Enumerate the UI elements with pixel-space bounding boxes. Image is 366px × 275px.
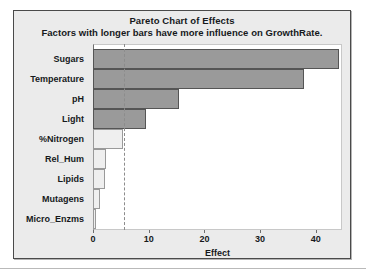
bar-light (93, 109, 146, 129)
x-axis: Effect 010203040 (93, 230, 342, 260)
x-axis-tick (316, 230, 317, 233)
x-axis-tick-label: 10 (144, 234, 154, 244)
chart-title: Pareto Chart of Effects (14, 15, 350, 27)
chart-subtitle: Factors with longer bars have more influ… (14, 27, 350, 39)
bar-row (93, 69, 342, 89)
bar-row (93, 109, 342, 129)
bar-row (93, 189, 342, 209)
y-axis-label: Temperature (14, 69, 89, 89)
y-axis-label: Rel_Hum (14, 149, 89, 169)
bar-rel-hum (93, 149, 106, 169)
bar-sugars (93, 49, 339, 69)
bar-row (93, 89, 342, 109)
plot-region (93, 44, 342, 230)
reference-line (124, 44, 125, 230)
y-axis-label: Mutagens (14, 189, 89, 209)
bar-row (93, 169, 342, 189)
x-axis-tick (149, 230, 150, 233)
x-axis-title: Effect (93, 248, 342, 258)
bar-row (93, 129, 342, 149)
y-axis-label: Light (14, 109, 89, 129)
y-axis-label: Sugars (14, 49, 89, 69)
page-divider (0, 268, 366, 269)
bar-micro-enzms (93, 209, 96, 229)
bar-mutagens (93, 189, 100, 209)
y-axis-category-labels: SugarsTemperaturepHLight%NitrogenRel_Hum… (14, 49, 89, 230)
bar--nitrogen (93, 129, 123, 149)
y-axis-label: Lipids (14, 169, 89, 189)
pareto-chart-figure: Pareto Chart of Effects Factors with lon… (13, 10, 351, 259)
chart-title-block: Pareto Chart of Effects Factors with lon… (14, 15, 350, 39)
x-axis-tick (93, 230, 94, 233)
x-axis-tick-label: 30 (255, 234, 265, 244)
x-axis-tick-label: 0 (90, 234, 95, 244)
x-axis-tick (204, 230, 205, 233)
y-axis-label: %Nitrogen (14, 129, 89, 149)
x-axis-tick (260, 230, 261, 233)
y-axis-label: Micro_Enzms (14, 209, 89, 229)
bar-row (93, 209, 342, 229)
x-axis-tick-label: 40 (311, 234, 321, 244)
bar-row (93, 49, 342, 69)
x-axis-tick-label: 20 (199, 234, 209, 244)
bars-layer (93, 49, 342, 230)
bar-ph (93, 89, 179, 109)
bar-lipids (93, 169, 105, 189)
y-axis-label: pH (14, 89, 89, 109)
bar-row (93, 149, 342, 169)
